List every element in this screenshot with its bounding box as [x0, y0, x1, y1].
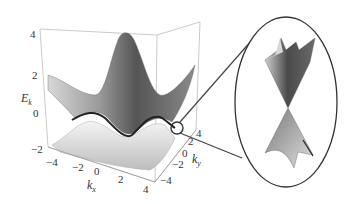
x-tick: 4 — [143, 183, 149, 195]
upper-band-surface — [48, 33, 195, 134]
z-tick: −2 — [31, 143, 43, 155]
y-tick: 4 — [196, 127, 202, 139]
y-tick: −2 — [172, 158, 184, 170]
z-tick: 2 — [32, 69, 38, 81]
y-axis-label: ky — [192, 152, 201, 168]
z-axis-label: Ek — [20, 91, 32, 107]
x-tick: 2 — [118, 173, 124, 185]
lower-band-surface — [52, 121, 175, 170]
band-structure-figure: 4 2 0 −2 Ek −4 −2 0 2 4 kx 4 2 0 −2 −4 k… — [0, 0, 361, 204]
dirac-point-marker — [171, 122, 183, 134]
z-tick: 0 — [33, 107, 39, 119]
dirac-cone-inset — [235, 17, 337, 187]
x-tick: −2 — [72, 161, 84, 173]
z-axis: 4 2 0 −2 Ek — [20, 28, 43, 155]
y-tick: −4 — [160, 174, 172, 186]
x-axis-label: kx — [87, 178, 96, 194]
z-tick: 4 — [30, 28, 36, 40]
x-tick: 0 — [94, 165, 100, 177]
x-tick: −4 — [46, 156, 58, 168]
